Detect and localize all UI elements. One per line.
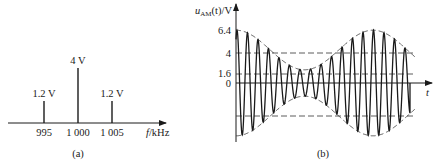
upper-envelope — [236, 30, 416, 70]
y-tick-6.4: 6.4 — [218, 25, 232, 36]
freq-label-1005: 1 005 — [100, 127, 124, 138]
panel-a-spectrum: 1.2 V 4 V 1.2 V 995 1 000 1 005 f/kHz (a… — [8, 55, 170, 160]
y-tick-0: 0 — [226, 78, 231, 89]
frequency-axis-label: f/kHz — [146, 127, 170, 138]
voltage-axis-label: uAM(t)/V — [195, 5, 232, 18]
y-tick-4: 4 — [226, 48, 232, 59]
amp-label-carrier: 4 V — [70, 55, 86, 66]
amp-label-lower: 1.2 V — [32, 88, 56, 99]
caption-b: (b) — [317, 148, 330, 160]
freq-label-995: 995 — [36, 127, 52, 138]
amp-label-upper: 1.2 V — [100, 88, 124, 99]
panel-b-waveform: 6.4 4 1.6 0 uAM(t)/V t (b) — [195, 4, 432, 160]
time-axis-label: t — [426, 87, 430, 98]
freq-label-1000: 1 000 — [66, 127, 90, 138]
caption-a: (a) — [72, 148, 84, 160]
figure-canvas: 1.2 V 4 V 1.2 V 995 1 000 1 005 f/kHz (a… — [0, 0, 437, 168]
